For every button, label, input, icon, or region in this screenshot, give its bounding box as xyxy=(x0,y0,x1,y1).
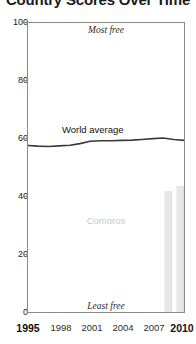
x-tick-label-2004: 2004 xyxy=(106,322,140,333)
chart-title: Country Scores Over Time xyxy=(0,0,196,8)
x-tick-label-2001: 2001 xyxy=(75,322,109,333)
world-average-line xyxy=(28,23,184,312)
plot-area: Most free Least free World average Comor… xyxy=(27,22,185,313)
x-tick-label-1998: 1998 xyxy=(44,322,78,333)
chart-root: Country Scores Over Time 100 80 60 40 20… xyxy=(0,0,196,344)
x-tick-label-1995: 1995 xyxy=(11,322,45,334)
comoros-label: Comoros xyxy=(28,215,184,226)
world-average-label: World average xyxy=(62,124,124,135)
x-tick-label-2010: 2010 xyxy=(165,322,196,334)
